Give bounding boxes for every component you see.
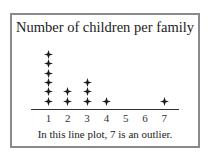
diamond-marker-icon (83, 78, 92, 87)
diamond-marker-icon (83, 87, 92, 96)
x-tick-label: 1 (42, 112, 56, 124)
diamond-marker-icon (44, 87, 53, 96)
x-tick-label: 3 (80, 112, 94, 124)
diamond-marker-icon (102, 97, 111, 106)
diamond-marker-icon (160, 97, 169, 106)
diamond-marker-icon (44, 97, 53, 106)
diamond-marker-icon (44, 78, 53, 87)
diamond-marker-icon (44, 50, 53, 59)
diamond-marker-icon (44, 69, 53, 78)
chart-caption: In this line plot, 7 is an outlier. (12, 128, 198, 140)
diamond-marker-icon (63, 97, 72, 106)
diamond-marker-icon (44, 59, 53, 68)
x-tick-label: 2 (61, 112, 75, 124)
diamond-marker-icon (63, 87, 72, 96)
x-tick-label: 4 (99, 112, 113, 124)
x-axis-line (31, 109, 179, 110)
x-tick-label: 5 (119, 112, 133, 124)
chart-frame: Number of children per family 1234567 In… (10, 13, 200, 148)
x-tick-label: 6 (138, 112, 152, 124)
diamond-marker-icon (83, 97, 92, 106)
x-tick-label: 7 (157, 112, 171, 124)
